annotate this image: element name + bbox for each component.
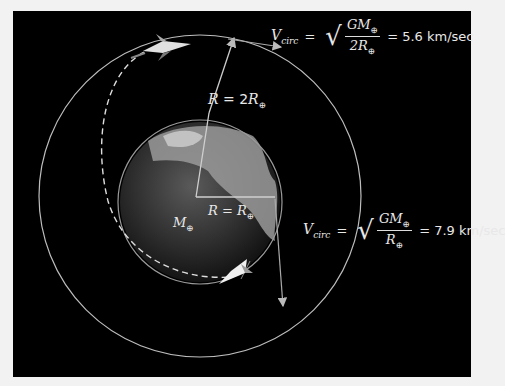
earth-mass-label: M⊕: [173, 215, 194, 233]
equation-inner-velocity: Vcirc = √ GM⊕ R⊕ = 7.9 km/sec: [303, 211, 505, 249]
velocity-arrow-inner: [275, 199, 283, 306]
equation-outer-velocity: Vcirc = √ GM⊕ 2R⊕ = 5.6 km/sec: [271, 17, 473, 55]
diagram-graphics: [13, 11, 471, 377]
earth: [118, 120, 282, 284]
outer-radius-label: R = 2R⊕: [208, 91, 266, 110]
spacecraft-top-icon: [131, 34, 191, 61]
inner-radius-label: R = R⊕: [208, 203, 254, 221]
orbit-diagram: R = 2R⊕ R = R⊕ M⊕ Vcirc = √ GM⊕ 2R⊕ = 5.…: [13, 11, 471, 377]
